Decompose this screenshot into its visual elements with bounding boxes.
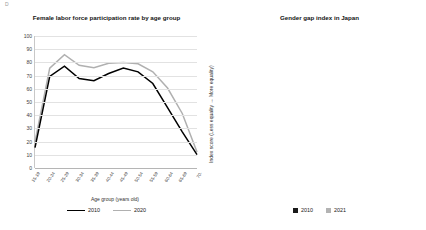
- line-chart-y-tick: 0: [29, 165, 32, 171]
- bar-legend-item-2010: 2010: [293, 207, 313, 213]
- line-chart-gridline: [35, 142, 197, 143]
- line-chart-y-tick: 70: [26, 73, 32, 79]
- legend-color-swatch: [293, 208, 298, 213]
- legend-label: 2010: [301, 207, 313, 213]
- line-legend-item-2020: 2020: [113, 207, 146, 213]
- bar-chart-y-axis-label: Index score (Less equality ↔ More equali…: [208, 58, 214, 170]
- legend-label: 2021: [334, 207, 346, 213]
- line-chart-y-tick: 20: [26, 139, 32, 145]
- line-chart-y-tick: 80: [26, 59, 32, 65]
- line-chart-gridline: [35, 36, 197, 37]
- bar-chart-legend: 20102021: [243, 207, 396, 213]
- line-chart-x-axis-label: Age group (years old): [34, 196, 196, 202]
- line-chart-y-tick: 90: [26, 46, 32, 52]
- line-chart-gridline: [35, 102, 197, 103]
- bar-chart-panel: Gender gap index in Japan Index score (L…: [213, 0, 426, 230]
- legend-color-swatch: [326, 208, 331, 213]
- line-legend-item-2010: 2010: [67, 207, 100, 213]
- line-chart-y-tick: 10: [26, 152, 32, 158]
- line-chart-title: Female labor force participation rate by…: [0, 14, 213, 22]
- line-chart-gridline: [35, 76, 197, 77]
- line-chart-y-tick: 100: [24, 33, 32, 39]
- legend-line-swatch: [113, 210, 131, 211]
- line-chart-gridline: [35, 115, 197, 116]
- line-chart-y-tick: 50: [26, 99, 32, 105]
- line-chart-panel: Female labor force participation rate by…: [0, 0, 213, 230]
- line-chart-gridline: [35, 128, 197, 129]
- line-chart-gridline: [35, 89, 197, 90]
- line-chart-y-tick: 30: [26, 125, 32, 131]
- line-chart-plot-area: 010203040506070809010015-1920-2425-2930-…: [34, 36, 197, 168]
- line-chart-gridline: [35, 49, 197, 50]
- legend-label: 2020: [134, 207, 146, 213]
- legend-line-swatch: [67, 210, 85, 211]
- slide-canvas: D Female labor force participation rate …: [0, 0, 426, 230]
- line-chart-y-tick: 60: [26, 86, 32, 92]
- legend-label: 2010: [88, 207, 100, 213]
- line-chart-axis-line: [35, 168, 197, 169]
- line-chart-gridline: [35, 155, 197, 156]
- line-chart-gridline: [35, 62, 197, 63]
- line-chart-legend: 20102020: [20, 207, 193, 213]
- bar-chart-title: Gender gap index in Japan: [213, 14, 426, 22]
- line-chart-y-tick: 40: [26, 112, 32, 118]
- bar-legend-item-2021: 2021: [326, 207, 346, 213]
